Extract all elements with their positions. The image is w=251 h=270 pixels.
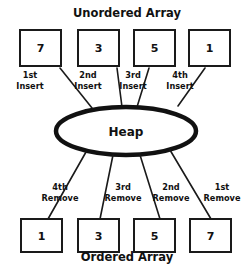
insert-label-3: 3rd Insert xyxy=(119,70,146,91)
remove-label-2: 2nd Remove xyxy=(153,182,190,203)
remove-label-1: 1st Remove xyxy=(204,182,241,203)
box-value: 3 xyxy=(95,230,103,243)
insert-ordinal: 3rd xyxy=(125,70,141,80)
ordered-box-2[interactable]: 5 xyxy=(134,219,175,252)
unordered-box-2[interactable]: 5 xyxy=(134,30,175,66)
ordered-box-1[interactable]: 3 xyxy=(78,219,119,252)
box-value: 3 xyxy=(95,42,103,55)
insert-ordinal: 2nd xyxy=(79,70,97,80)
insert-label-2: 2nd Insert xyxy=(74,70,101,91)
remove-labels: 4th Remove 3rd Remove 2nd Remove 1st Rem… xyxy=(42,182,241,203)
insert-labels: 1st Insert 2nd Insert 3rd Insert 4th Ins… xyxy=(16,70,193,91)
insert-action: Insert xyxy=(119,81,146,91)
insert-ordinal: 4th xyxy=(172,70,188,80)
ordered-array-group: 1 3 5 7 xyxy=(21,219,231,252)
ordered-box-3[interactable]: 7 xyxy=(190,219,231,252)
ordered-box-0[interactable]: 1 xyxy=(21,219,62,252)
remove-label-4: 4th Remove xyxy=(42,182,79,203)
box-value: 1 xyxy=(206,42,214,55)
remove-action: Remove xyxy=(105,193,142,203)
insert-label-1: 1st Insert xyxy=(16,70,43,91)
box-value: 5 xyxy=(151,230,159,243)
heap-diagram: Unordered Array 7 3 5 1 xyxy=(0,0,251,270)
box-value: 7 xyxy=(207,230,215,243)
remove-ordinal: 4th xyxy=(52,182,68,192)
insert-action: Insert xyxy=(74,81,101,91)
remove-label-3: 3rd Remove xyxy=(105,182,142,203)
insert-action: Insert xyxy=(166,81,193,91)
ordered-array-title: Ordered Array xyxy=(81,250,174,264)
insert-action: Insert xyxy=(16,81,43,91)
remove-ordinal: 2nd xyxy=(162,182,180,192)
box-value: 5 xyxy=(151,42,159,55)
remove-action: Remove xyxy=(42,193,79,203)
heap-node[interactable]: Heap xyxy=(56,107,196,155)
remove-ordinal: 1st xyxy=(215,182,230,192)
unordered-box-3[interactable]: 1 xyxy=(189,30,230,66)
unordered-box-1[interactable]: 3 xyxy=(78,30,119,66)
remove-action: Remove xyxy=(153,193,190,203)
remove-connector-3 xyxy=(100,155,113,219)
box-value: 1 xyxy=(38,230,46,243)
box-value: 7 xyxy=(37,42,45,55)
remove-connector-2 xyxy=(140,155,160,219)
insert-label-4: 4th Insert xyxy=(166,70,193,91)
heap-label: Heap xyxy=(109,125,144,139)
diagram-canvas: Unordered Array 7 3 5 1 xyxy=(0,0,251,270)
unordered-array-group: 7 3 5 1 xyxy=(20,30,230,66)
insert-ordinal: 1st xyxy=(23,70,38,80)
remove-ordinal: 3rd xyxy=(115,182,131,192)
unordered-array-title: Unordered Array xyxy=(73,6,181,20)
unordered-box-0[interactable]: 7 xyxy=(20,30,61,66)
remove-action: Remove xyxy=(204,193,241,203)
